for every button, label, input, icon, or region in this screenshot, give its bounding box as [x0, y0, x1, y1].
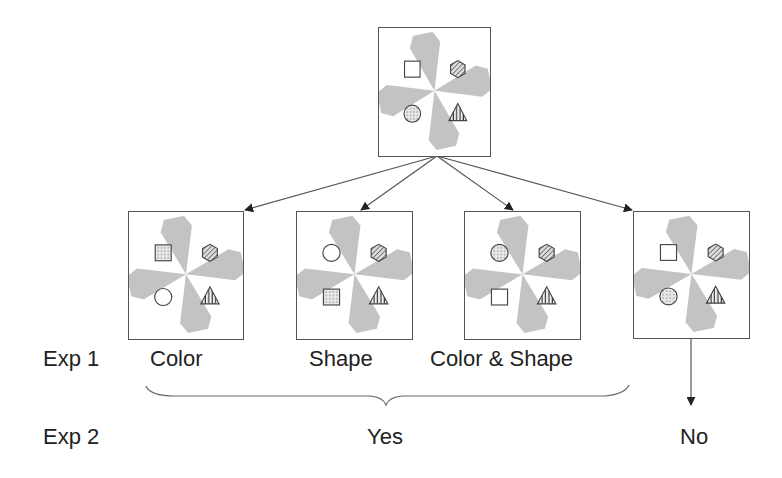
top-right-item [203, 244, 218, 261]
bottom-right-item [369, 287, 387, 304]
label-no: No [680, 425, 708, 449]
stimulus-shape [296, 211, 413, 340]
bottom-left-item [404, 105, 421, 122]
arrow-to-color-shape [437, 156, 513, 210]
label-yes: Yes [367, 425, 403, 449]
arrow-to-no-change [437, 156, 632, 210]
pinwheel-figure [129, 212, 243, 339]
label-color-shape: Color & Shape [430, 347, 573, 371]
bottom-left-item [323, 289, 339, 305]
brace [146, 385, 629, 405]
top-right-item [371, 244, 386, 261]
bottom-left-item [660, 288, 677, 305]
top-right-item [539, 244, 554, 261]
pinwheel-figure [465, 212, 580, 339]
top-left-item [155, 245, 171, 261]
bottom-right-item [201, 287, 219, 304]
pinwheel-figure [379, 28, 490, 156]
bottom-left-item [155, 289, 172, 306]
pinwheel-figure [297, 212, 412, 339]
exp2-row-label: Exp 2 [43, 425, 99, 449]
top-right-item [451, 61, 465, 78]
label-shape: Shape [309, 347, 373, 371]
top-left-item [491, 244, 508, 261]
label-color: Color [150, 347, 203, 371]
stimulus-no-change [633, 211, 750, 339]
pinwheel-figure [634, 212, 749, 338]
exp1-row-label: Exp 1 [43, 347, 99, 371]
top-left-item [660, 245, 676, 261]
bottom-right-item [706, 286, 724, 303]
bottom-right-item [449, 103, 467, 120]
arrow-to-shape [361, 156, 437, 210]
bottom-right-item [537, 287, 555, 304]
bottom-left-item [491, 289, 507, 305]
arrow-to-color [245, 156, 437, 210]
top-left-item [323, 244, 340, 261]
top-right-item [708, 244, 723, 261]
stimulus-color [128, 211, 244, 340]
top-left-item [405, 61, 421, 77]
original-display [378, 27, 491, 157]
stimulus-color-shape [464, 211, 581, 340]
